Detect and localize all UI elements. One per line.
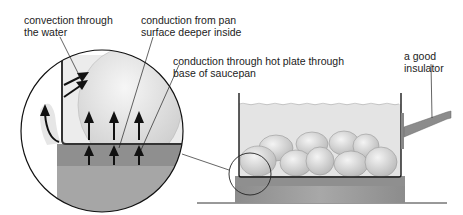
label-convection: convection through the water — [24, 14, 113, 38]
label-conduction-plate: conduction through hot plate through bas… — [173, 55, 344, 79]
saucepan-handle — [401, 111, 451, 149]
hot-plate — [235, 176, 405, 203]
label-conduction-pan: conduction from pan surface deeper insid… — [141, 14, 241, 38]
label-convection-line1: convection through — [24, 14, 113, 26]
label-insulator-line1: a good — [404, 50, 444, 62]
label-conduction-pan-line2: surface deeper inside — [141, 26, 241, 38]
label-conduction-plate-line1: conduction through hot plate through — [173, 55, 344, 67]
label-conduction-pan-line1: conduction from pan — [141, 14, 241, 26]
label-insulator: a good insulator — [404, 50, 444, 74]
label-insulator-line2: insulator — [404, 62, 444, 74]
label-conduction-plate-line2: base of saucepan — [173, 67, 344, 79]
label-convection-line2: the water — [24, 26, 113, 38]
